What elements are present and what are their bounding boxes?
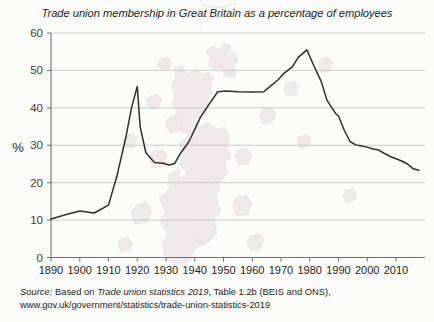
y-tick-label: 40 bbox=[30, 102, 43, 114]
x-tick-label: 1950 bbox=[211, 264, 235, 276]
x-tick-label: 1910 bbox=[96, 264, 120, 276]
y-tick-label: 0 bbox=[37, 252, 43, 264]
x-tick-label: 2010 bbox=[384, 264, 408, 276]
x-tick-label: 1890 bbox=[39, 264, 63, 276]
source-suffix: , Table 1.2b (BEIS and ONS), bbox=[209, 286, 331, 297]
x-tick-label: 1900 bbox=[68, 264, 92, 276]
x-tick-label: 1990 bbox=[326, 264, 350, 276]
chart-figure: Trade union membership in Great Britain … bbox=[0, 0, 434, 322]
y-tick-label: 30 bbox=[30, 139, 43, 151]
y-tick-label: 10 bbox=[30, 214, 43, 226]
y-axis-label: % bbox=[12, 140, 24, 155]
y-axis-ticks: 0102030405060 bbox=[30, 27, 51, 264]
y-tick-label: 20 bbox=[30, 177, 43, 189]
source-lead: Source: bbox=[20, 286, 52, 297]
x-tick-label: 1970 bbox=[269, 264, 293, 276]
y-tick-label: 50 bbox=[30, 64, 43, 76]
source-note: Source: Based on Trade union statistics … bbox=[20, 286, 430, 311]
x-axis-ticks: 1890190019101920193019401950196019701980… bbox=[39, 258, 408, 276]
line-chart-canvas: 0102030405060 18901900191019201930194019… bbox=[0, 0, 434, 322]
source-url: www.gov.uk/government/statistics/trade-u… bbox=[20, 299, 270, 310]
source-work-title: Trade union statistics 2019 bbox=[97, 286, 208, 297]
x-tick-label: 1940 bbox=[183, 264, 207, 276]
x-tick-label: 1980 bbox=[298, 264, 322, 276]
x-tick-label: 1930 bbox=[154, 264, 178, 276]
y-tick-label: 60 bbox=[30, 27, 43, 39]
x-tick-label: 1920 bbox=[125, 264, 149, 276]
x-tick-label: 1960 bbox=[240, 264, 264, 276]
source-prefix: Based on bbox=[55, 286, 95, 297]
great-britain-map-watermark bbox=[118, 43, 357, 265]
x-tick-label: 2000 bbox=[355, 264, 379, 276]
